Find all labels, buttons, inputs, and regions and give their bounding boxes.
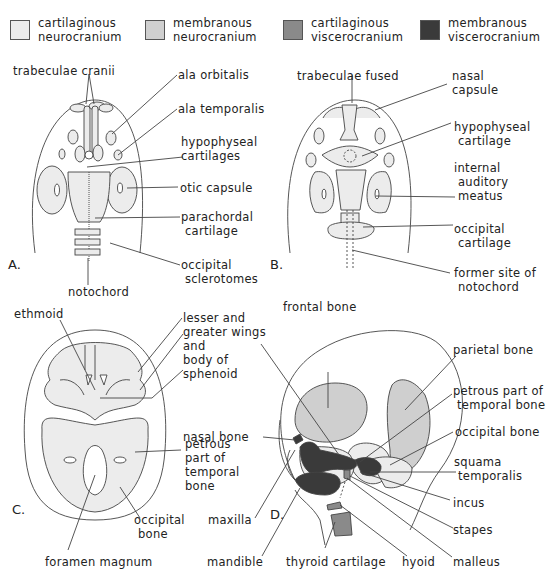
label-stapes: stapes (453, 523, 493, 537)
label-otic-capsule: otic capsule (180, 181, 253, 195)
label-parietal-bone: parietal bone (453, 343, 533, 357)
label-trabeculae-fused: trabeculae fused (297, 69, 399, 83)
label-notochord: notochord (68, 285, 129, 299)
label-incus: incus (453, 496, 485, 510)
label-petrous-part-c: petrous part of temporal bone (185, 437, 240, 493)
label-maxilla: maxilla (208, 513, 252, 527)
label-occipital-bone-d: occipital bone (455, 425, 540, 439)
label-parachordal-cartilage: parachordal cartilage (181, 210, 253, 238)
label-thyroid-cartilage: thyroid cartilage (286, 555, 386, 569)
label-nasal-bone: nasal bone (183, 430, 249, 444)
panel-a-drawing (32, 74, 183, 285)
panel-b-drawing (288, 75, 455, 273)
label-squama-temporalis: squama temporalis (454, 455, 522, 483)
label-ala-temporalis: ala temporalis (178, 102, 264, 116)
panel-d-letter: D. (270, 507, 284, 522)
label-occipital-sclerotomes: occipital sclerotomes (181, 258, 258, 286)
label-frontal-bone: frontal bone (283, 300, 357, 314)
label-former-site-of-notochord: former site of notochord (454, 266, 536, 294)
label-hypophyseal-cartilage: hypophyseal cartilage (454, 120, 530, 148)
label-hyoid: hyoid (402, 555, 435, 569)
label-petrous-part-d: petrous part of temporal bone (453, 384, 545, 412)
panel-a-letter: A. (8, 257, 21, 272)
panel-d-drawing (255, 331, 463, 557)
label-foramen-magnum: foramen magnum (45, 555, 153, 569)
label-mandible: mandible (207, 555, 263, 569)
label-nasal-capsule: nasal capsule (452, 69, 498, 97)
label-ethmoid: ethmoid (14, 307, 64, 321)
label-trabeculae-cranii: trabeculae cranii (13, 64, 115, 78)
label-internal-auditory-meatus: internal auditory meatus (454, 161, 508, 203)
label-occipital-bone-c: occipital bone (134, 513, 185, 541)
label-malleus: malleus (453, 555, 500, 569)
label-hypophyseal-cartilages: hypophyseal cartilages (181, 135, 257, 163)
label-sphenoid: lesser and greater wings and body of sph… (183, 311, 266, 381)
panel-c-letter: C. (12, 502, 25, 517)
label-ala-orbitalis: ala orbitalis (178, 68, 249, 82)
label-occipital-cartilage: occipital cartilage (454, 222, 511, 250)
panel-b-letter: B. (270, 257, 283, 272)
